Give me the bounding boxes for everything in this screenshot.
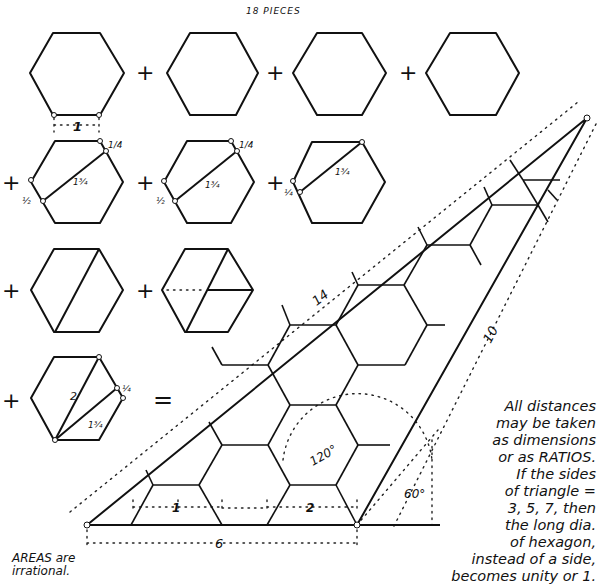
svg-text:+: +: [136, 60, 154, 85]
svg-text:1/4: 1/4: [239, 140, 254, 150]
svg-text:1: 1: [172, 501, 180, 515]
row2-pieces: + 1/4 1¾ ½ + 1/4 1¾ ½ + 1¾ ¼: [2, 139, 385, 224]
svg-text:+: +: [266, 60, 284, 85]
areas-note-line: irrational.: [12, 565, 75, 578]
svg-text:¼: ¼: [122, 384, 131, 394]
svg-text:+: +: [136, 278, 154, 303]
svg-text:+: +: [2, 170, 20, 195]
svg-text:+: +: [2, 278, 20, 303]
svg-text:+: +: [399, 60, 417, 85]
note-line: the long dia.: [436, 517, 596, 534]
note-line: 3, 5, 7, then: [436, 500, 596, 517]
svg-text:+: +: [2, 388, 20, 413]
svg-text:=: =: [153, 386, 173, 414]
note-line: or as RATIOS.: [436, 449, 596, 466]
hexagon-piece-1: [30, 33, 124, 115]
note-line: instead of a side,: [436, 551, 596, 568]
svg-text:1¾: 1¾: [73, 177, 88, 187]
svg-text:10: 10: [480, 324, 501, 346]
svg-text:+: +: [136, 170, 154, 195]
note-line: of hexagon,: [436, 534, 596, 551]
svg-text:6: 6: [215, 536, 223, 551]
svg-text:1: 1: [73, 119, 82, 134]
svg-text:1¾: 1¾: [205, 180, 220, 190]
svg-text:60°: 60°: [404, 487, 425, 501]
svg-text:2: 2: [306, 501, 314, 515]
svg-text:¼: ¼: [284, 188, 293, 198]
svg-text:1¾: 1¾: [335, 167, 350, 177]
note-line: may be taken: [436, 415, 596, 432]
svg-text:1/4: 1/4: [108, 140, 123, 150]
hexagon-piece-3: [293, 33, 386, 115]
svg-text:1¾: 1¾: [88, 420, 103, 430]
note-line: as dimensions: [436, 432, 596, 449]
row3-pieces: + +: [2, 249, 253, 332]
svg-text:120°: 120°: [307, 442, 339, 469]
row1-hexagons: 1 + + +: [30, 33, 519, 134]
hexagon-piece-2: [167, 33, 258, 115]
svg-text:2: 2: [70, 390, 77, 403]
note-line: If the sides: [436, 466, 596, 483]
hexagon-piece-4: [426, 33, 519, 115]
note-line: of triangle =: [436, 483, 596, 500]
svg-text:14: 14: [309, 287, 331, 309]
note-line: becomes unity or 1.: [436, 568, 596, 585]
row4-piece: + 2 1¾ ¼ =: [2, 355, 173, 443]
svg-text:+: +: [266, 170, 284, 195]
note-line: All distances: [436, 398, 596, 415]
areas-note: AREAS are irrational.: [12, 552, 75, 578]
svg-text:½: ½: [156, 196, 165, 206]
svg-text:½: ½: [22, 196, 31, 206]
explanatory-notes: All distances may be taken as dimensions…: [436, 398, 596, 585]
